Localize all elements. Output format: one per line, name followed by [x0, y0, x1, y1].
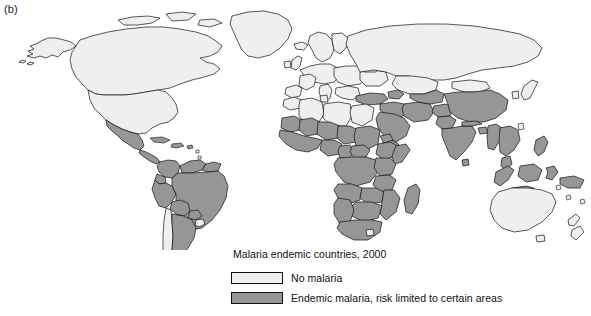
country-venezuela: [180, 160, 206, 173]
country-chile: [161, 208, 173, 250]
map-land-layer: [19, 11, 585, 250]
country-mozambique: [380, 190, 400, 220]
country-new-zealand: [568, 214, 584, 240]
country-mongolia: [452, 80, 490, 92]
country-puerto-rico: [187, 145, 193, 149]
country-tasmania: [536, 235, 545, 242]
country-united-states: [88, 90, 178, 134]
no-malaria-swatch: [231, 272, 283, 284]
country-hispaniola: [171, 143, 184, 148]
islands-canadian-arctic: [118, 12, 222, 27]
country-bolivia: [170, 200, 190, 216]
country-alaska: [27, 38, 76, 58]
country-indonesia-borneo: [518, 164, 542, 182]
country-cuba: [150, 137, 170, 143]
world-map: .c-none { fill: #efefef; stroke: #111111…: [0, 0, 591, 250]
country-finland: [332, 33, 348, 54]
country-taiwan: [518, 123, 524, 130]
region-indochina: [499, 126, 520, 156]
region-scandinavia: [308, 32, 334, 62]
map-legend: Malaria endemic countries, 2000 No malar…: [231, 248, 581, 309]
country-egypt: [350, 104, 374, 126]
country-australia: [490, 188, 556, 232]
country-madagascar: [404, 184, 420, 214]
country-indonesia-sumatra: [494, 166, 514, 186]
region-iberia: [285, 85, 302, 98]
country-bangladesh: [478, 127, 488, 134]
country-greenland: [230, 11, 292, 58]
figure-panel: (b) .c-none { fill: #efefef; stroke: #11…: [0, 0, 591, 316]
country-ukraine: [360, 70, 388, 86]
country-niger: [317, 122, 340, 140]
country-china: [444, 90, 508, 122]
legend-label-endemic-malaria: Endemic malaria, risk limited to certain…: [291, 292, 502, 304]
country-india: [442, 126, 476, 160]
country-zimbabwe-botswana: [350, 202, 382, 222]
country-ireland: [284, 61, 291, 68]
region-central-america: [139, 150, 160, 164]
country-japan: [521, 80, 538, 100]
country-united-kingdom: [291, 56, 302, 70]
legend-label-no-malaria: No malaria: [291, 272, 342, 284]
islands-aleutian: [19, 60, 34, 65]
country-philippines: [534, 136, 548, 156]
country-zambia: [360, 188, 384, 204]
endemic-malaria-swatch: [231, 292, 283, 304]
country-sri-lanka: [462, 159, 469, 166]
country-south-africa: [337, 220, 382, 240]
region-korea: [512, 91, 519, 99]
region-congo-basin: [334, 157, 378, 186]
country-lesotho: [366, 229, 374, 236]
country-tunisia: [320, 95, 328, 102]
legend-row-endemic-malaria: Endemic malaria, risk limited to certain…: [231, 289, 581, 306]
islands-lesser-antilles: [196, 150, 201, 159]
legend-title: Malaria endemic countries, 2000: [233, 248, 581, 260]
country-namibia: [334, 198, 354, 224]
country-pakistan: [436, 116, 456, 129]
legend-row-no-malaria: No malaria: [231, 269, 581, 286]
country-canada: [70, 27, 222, 95]
country-iceland: [294, 42, 308, 50]
country-papua-new-guinea: [560, 176, 584, 188]
world-map-svg: .c-none { fill: #efefef; stroke: #111111…: [0, 0, 591, 250]
country-indonesia-sulawesi: [546, 166, 558, 180]
country-iran: [402, 102, 434, 122]
